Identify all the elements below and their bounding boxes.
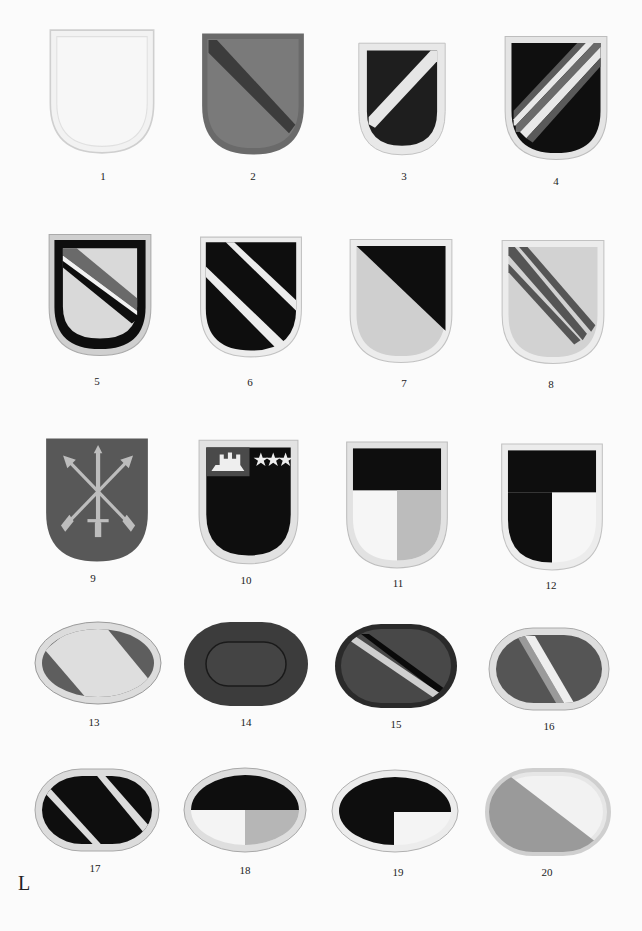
oval-shape <box>33 620 163 706</box>
flash-shape <box>200 30 306 158</box>
oval-shape <box>182 620 310 708</box>
flash-shape <box>498 442 606 572</box>
label-1: 1 <box>83 170 123 182</box>
label-20: 20 <box>527 866 567 878</box>
flash-shape <box>48 28 156 155</box>
patch-13 <box>33 620 163 706</box>
patch-6 <box>198 235 304 359</box>
flash-shape <box>348 237 454 365</box>
flash-shape <box>344 440 450 570</box>
patch-15 <box>333 622 459 710</box>
label-16: 16 <box>529 720 569 732</box>
patch-10 <box>197 438 300 566</box>
label-14: 14 <box>226 716 266 728</box>
patch-11 <box>344 440 450 570</box>
flash-shape <box>503 34 609 162</box>
oval-shape <box>182 766 308 854</box>
label-17: 17 <box>75 862 115 874</box>
patch-3 <box>357 41 447 157</box>
patch-5 <box>47 232 153 358</box>
label-6: 6 <box>230 376 270 388</box>
patch-17 <box>33 767 161 853</box>
patch-7 <box>348 237 454 365</box>
patch-2 <box>200 30 306 158</box>
flash-shape <box>198 235 304 359</box>
flash-shape <box>197 438 300 566</box>
label-9: 9 <box>73 572 113 584</box>
patch-18 <box>182 766 308 854</box>
patch-16 <box>487 626 611 712</box>
plate-letter: L <box>18 872 30 895</box>
patch-19 <box>330 768 460 854</box>
patch-9 <box>44 436 150 564</box>
patch-4 <box>503 34 609 162</box>
label-3: 3 <box>384 170 424 182</box>
label-10: 10 <box>226 574 266 586</box>
oval-shape <box>33 767 161 853</box>
patch-8 <box>500 238 606 366</box>
label-4: 4 <box>536 175 576 187</box>
label-2: 2 <box>233 170 273 182</box>
label-13: 13 <box>74 716 114 728</box>
flash-shape <box>47 232 153 358</box>
patch-12 <box>498 442 606 572</box>
label-8: 8 <box>531 378 571 390</box>
label-11: 11 <box>378 577 418 589</box>
patch-20 <box>485 768 611 856</box>
flash-shape <box>357 41 447 157</box>
patch-14 <box>182 620 310 708</box>
oval-shape <box>485 768 611 856</box>
label-18: 18 <box>225 864 265 876</box>
label-7: 7 <box>384 377 424 389</box>
label-15: 15 <box>376 718 416 730</box>
label-19: 19 <box>378 866 418 878</box>
patch-1 <box>48 28 156 155</box>
label-12: 12 <box>531 579 571 591</box>
oval-shape <box>330 768 460 854</box>
flash-shape <box>500 238 606 366</box>
label-5: 5 <box>77 375 117 387</box>
oval-shape <box>333 622 459 710</box>
flash-shape <box>44 436 150 564</box>
oval-shape <box>487 626 611 712</box>
